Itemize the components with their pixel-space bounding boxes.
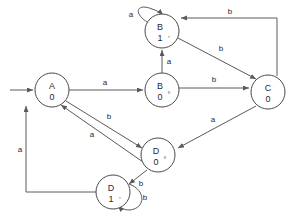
edge-label-d1-self-loop: b [143,193,148,202]
edge-label-c-to-d0: a [211,115,216,124]
node-d-prime-output-label: 1 [108,194,113,204]
edge-label-b0-to-b1: a [167,57,172,66]
node-d-zero-output-label: 0 [153,157,158,167]
node-b-zero-mark: ° [168,91,171,98]
edge-c-to-d0 [178,106,256,148]
edge-label-d0-to-a: a [90,130,95,139]
edge-d0-to-a [61,105,143,162]
node-d-prime-mark: ' [119,196,120,203]
node-c[interactable]: C 0 [251,75,285,109]
node-d-prime[interactable]: D 1 ' [96,175,130,209]
node-c-state-label: C [265,83,272,93]
node-a[interactable]: A 0 [35,73,69,107]
node-a-output-label: 0 [49,92,54,102]
edge-b1-to-c [178,38,256,79]
node-b-prime-mark: ' [168,35,169,42]
edge-label-b0-to-c: b [212,75,217,84]
node-c-output-label: 0 [265,94,270,104]
edge-label-b1-to-c: b [219,44,224,53]
edge-label-c-to-b1: b [228,7,233,16]
edge-label-a-to-d0: b [107,112,112,121]
edge-label-b1-self-loop: a [129,10,134,19]
node-d-zero[interactable]: D 0 ° [141,138,175,172]
edge-label-d0-to-d1: b [139,179,144,188]
node-b-zero[interactable]: B 0 ° [145,73,179,107]
edge-label-a-to-b0: a [103,78,108,87]
node-d-zero-state-label: D [153,146,160,156]
node-b-zero-output-label: 0 [157,92,162,102]
node-b-zero-state-label: B [157,81,163,91]
node-d-zero-mark: ° [164,156,167,163]
fsm-canvas: a a b a b b a b a b b a [0,0,304,223]
node-b-prime-state-label: B [157,22,163,32]
node-b-prime[interactable]: B 1 ' [145,14,179,48]
edge-a-to-d0 [66,101,142,148]
node-b-prime-output-label: 1 [157,33,162,43]
edge-label-d1-to-a: a [18,145,23,154]
fsm-diagram: a a b a b b a b a b b a [0,0,304,223]
node-d-prime-state-label: D [108,183,115,193]
node-a-state-label: A [49,81,55,91]
edge-d1-to-a [26,106,96,192]
